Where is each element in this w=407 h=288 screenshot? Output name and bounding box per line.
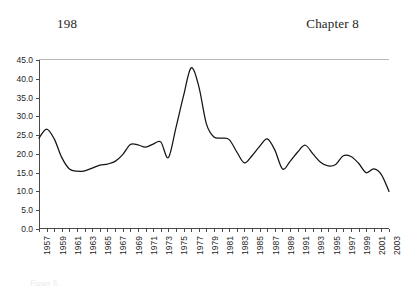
figure-caption-text: Figure 8. <box>30 279 59 286</box>
series-plot-area <box>0 46 407 246</box>
data-series-line <box>39 68 389 192</box>
line-chart: 45.040.035.030.025.020.015.010.05.00.0 1… <box>0 46 407 246</box>
figure-caption: Figure 8. <box>30 272 230 286</box>
page-number: 198 <box>57 16 77 32</box>
page-header: 198 Chapter 8 <box>0 8 407 30</box>
chapter-label: Chapter 8 <box>306 16 359 32</box>
